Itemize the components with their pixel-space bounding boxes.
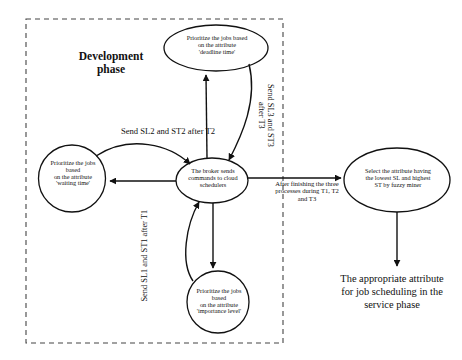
edge-importance-to-broker (186, 202, 199, 281)
edge-label-after-three-processes: After finishing the three processes duri… (258, 180, 356, 202)
node-select-attribute (344, 148, 450, 212)
development-phase-title: Development phase (52, 50, 170, 77)
node-deadline-time (164, 25, 268, 71)
node-importance-level (187, 271, 249, 333)
edge-deadline-to-broker (229, 64, 252, 160)
node-broker (176, 158, 248, 203)
node-waiting-time (39, 145, 106, 212)
edge-broker-to-deadline (206, 75, 207, 158)
edge-label-sl1-st1: Send SL1 and ST1 after T1 (140, 194, 149, 318)
outcome-text: The appropriate attribute for job schedu… (322, 272, 462, 311)
edge-label-sl3-st3: Send SL3 and ST3 after T3 (257, 71, 276, 159)
edge-waiting-to-broker (96, 144, 190, 164)
edge-label-sl2-st2: Send SL2 and ST2 after T2 (75, 127, 261, 137)
diagram-canvas: Development phase Prioritize the jobs ba… (0, 0, 462, 360)
